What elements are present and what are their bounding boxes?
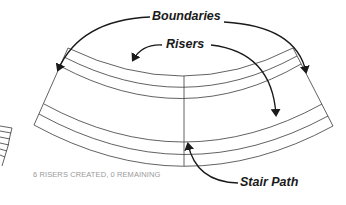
top-riser-arcs	[60, 48, 301, 99]
status-message: 6 RISERS CREATED, 0 REMAINING	[33, 171, 160, 179]
risers-label: Risers	[165, 38, 205, 51]
risers-right-arrow	[211, 45, 276, 115]
right-boundary	[293, 48, 333, 126]
stair-path-label: Stair Path	[239, 176, 299, 189]
boundaries-label: Boundaries	[151, 10, 222, 23]
adjacent-stair-fragment	[0, 126, 12, 166]
bottom-riser-arcs	[34, 104, 333, 166]
stair-path-arrow	[188, 144, 238, 183]
risers-left-arrow	[133, 45, 162, 60]
boundaries-left-arrow	[58, 17, 150, 70]
boundaries-right-arrow	[224, 22, 306, 72]
